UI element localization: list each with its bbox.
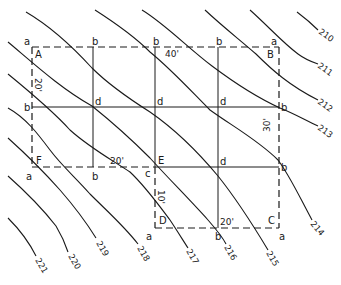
contour-221 — [8, 218, 36, 256]
contour-label-214: 214 — [308, 219, 326, 238]
contour-label-216: 216 — [222, 243, 239, 262]
point-label: d — [220, 96, 226, 107]
corner-f-label: F — [36, 155, 42, 166]
contour-label-220: 220 — [66, 252, 83, 271]
contour-label-210: 210 — [317, 26, 336, 44]
point-label: a — [26, 171, 32, 182]
point-label: d — [157, 96, 163, 107]
contour-labels: 210 211 212 213 214 215 216 217 218 219 … — [33, 26, 336, 275]
contour-label-217: 217 — [184, 247, 201, 266]
dimension-short-vertical: 10' — [156, 190, 166, 204]
point-label: b — [281, 102, 287, 113]
diagram-svg: A B C D E F a b b b a b d d d b a b c d … — [0, 0, 341, 285]
point-label: d — [95, 96, 101, 107]
corner-a-label: A — [35, 49, 42, 60]
point-label: b — [153, 36, 159, 47]
point-label: a — [279, 231, 285, 242]
dimension-right: 30' — [262, 118, 272, 132]
dimension-left: 20' — [33, 78, 43, 92]
contour-label-218: 218 — [135, 244, 152, 263]
point-label: b — [216, 36, 222, 47]
corner-b-label: B — [267, 49, 274, 60]
corner-e-label: E — [158, 155, 164, 166]
point-label: c — [145, 168, 151, 179]
contour-212 — [205, 10, 318, 100]
contour-210 — [297, 12, 318, 30]
contour-211 — [250, 10, 318, 64]
point-label: a — [24, 36, 30, 47]
contour-label-212: 212 — [316, 96, 335, 114]
contour-216 — [8, 42, 226, 244]
contour-label-219: 219 — [94, 239, 111, 258]
dimension-bottom: 20' — [220, 217, 234, 227]
point-label: b — [215, 231, 221, 242]
point-label: a — [271, 36, 277, 47]
contour-diagram: A B C D E F a b b b a b d d d b a b c d … — [0, 0, 341, 285]
contour-label-215: 215 — [264, 249, 281, 268]
corner-d-label: D — [159, 215, 167, 226]
dimension-top: 40' — [165, 49, 179, 59]
point-label: b — [24, 102, 30, 113]
point-label: b — [281, 162, 287, 173]
dimension-middle: 20' — [110, 156, 124, 166]
point-label: b — [92, 36, 98, 47]
point-label: d — [220, 156, 226, 167]
corner-c-label: C — [268, 215, 275, 226]
contour-label-213: 213 — [316, 122, 335, 140]
point-labels: a b b b a b d d d b a b c d b a b a — [24, 36, 287, 242]
contour-215 — [26, 12, 268, 250]
contour-label-211: 211 — [316, 60, 335, 78]
point-label: b — [92, 171, 98, 182]
contour-220 — [8, 176, 68, 252]
contour-label-221: 221 — [33, 256, 50, 275]
point-label: a — [146, 231, 152, 242]
